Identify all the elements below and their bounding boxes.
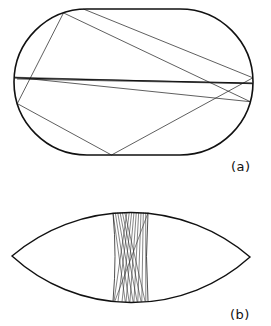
bouncing-ball-bundle: [113, 212, 148, 302]
panel-label-a: (a): [231, 159, 251, 174]
panel-label-b: (b): [230, 307, 250, 322]
lens-billiard-panel: [12, 212, 250, 303]
chaotic-trajectory: [14, 9, 253, 155]
stadium-billiard-panel: [14, 9, 253, 155]
